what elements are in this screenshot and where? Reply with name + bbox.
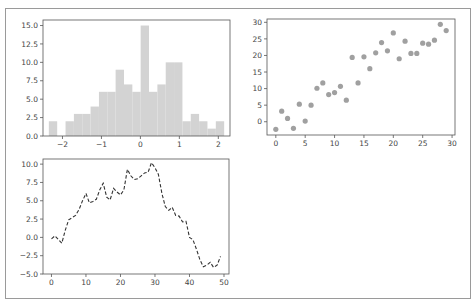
x-tick-label: 40 xyxy=(185,278,195,287)
scatter-point xyxy=(314,86,319,91)
scatter-point xyxy=(426,42,431,47)
scatter-point xyxy=(397,56,402,61)
histogram-bar xyxy=(66,121,74,136)
x-tick-label: 10 xyxy=(81,278,91,287)
y-tick-label: 10.0 xyxy=(21,160,38,169)
y-tick-label: 15.0 xyxy=(21,21,38,30)
scatter-point xyxy=(291,126,296,131)
scatter-point xyxy=(279,109,284,114)
x-tick-label: 20 xyxy=(389,139,399,148)
scatter-point xyxy=(385,48,390,53)
histogram-bar xyxy=(116,70,124,136)
scatter-point xyxy=(320,80,325,85)
x-tick-label: 25 xyxy=(418,139,428,148)
histogram-bar xyxy=(107,92,115,136)
histogram-bar xyxy=(216,121,224,136)
histogram-bar xyxy=(74,114,82,136)
scatter-point xyxy=(308,103,313,108)
scatter-point xyxy=(303,118,308,123)
histogram-bar xyxy=(124,84,132,136)
y-tick-label: −5.0 xyxy=(20,270,38,279)
scatter-point xyxy=(332,90,337,95)
histogram-bar xyxy=(82,114,90,136)
scatter-point xyxy=(373,50,378,55)
line-series xyxy=(52,163,221,268)
y-tick-label: 0.0 xyxy=(26,132,38,141)
y-tick-label: 0 xyxy=(257,117,262,126)
x-tick-label: 5 xyxy=(303,139,308,148)
scatter-point xyxy=(326,92,331,97)
scatter-point xyxy=(350,55,355,60)
x-tick-label: 0 xyxy=(273,139,278,148)
scatter-point xyxy=(414,51,419,56)
scatter-point xyxy=(391,30,396,35)
scatter-point xyxy=(408,51,413,56)
x-tick-label: −2 xyxy=(57,140,68,149)
y-tick-label: 30 xyxy=(252,18,262,27)
histogram-chart: −2−10120.02.55.07.510.012.515.0 xyxy=(21,20,230,149)
y-tick-label: −2.5 xyxy=(20,251,38,260)
scatter-point xyxy=(402,39,407,44)
scatter-point xyxy=(444,28,449,33)
histogram-bar xyxy=(191,114,199,136)
y-tick-label: 2.5 xyxy=(26,215,38,224)
scatter-point xyxy=(338,84,343,89)
y-tick-label: 7.5 xyxy=(26,178,38,187)
histogram-bar xyxy=(157,84,165,136)
x-tick-label: 0 xyxy=(138,140,143,149)
histogram-bar xyxy=(99,92,107,136)
histogram-bar xyxy=(141,26,149,136)
scatter-point xyxy=(361,54,366,59)
scatter-point xyxy=(379,40,384,45)
scatter-point xyxy=(285,116,290,121)
histogram-bar xyxy=(149,92,157,136)
scatter-point xyxy=(432,38,437,43)
histogram-bar xyxy=(49,121,57,136)
scatter-point xyxy=(420,41,425,46)
y-tick-label: 5 xyxy=(257,101,262,110)
y-tick-label: 12.5 xyxy=(21,40,38,49)
x-tick-label: −1 xyxy=(96,140,107,149)
histogram-bar xyxy=(199,121,207,136)
y-tick-label: 10 xyxy=(252,84,262,93)
x-tick-label: 0 xyxy=(49,278,54,287)
x-tick-label: 1 xyxy=(177,140,182,149)
histogram-bar xyxy=(207,129,215,136)
x-tick-label: 20 xyxy=(116,278,126,287)
x-tick-label: 15 xyxy=(359,139,369,148)
scatter-point xyxy=(297,102,302,107)
y-tick-label: 0.0 xyxy=(26,233,38,242)
y-tick-label: 5.0 xyxy=(26,196,38,205)
line-chart: 01020304050−5.0−2.50.02.55.07.510.0 xyxy=(20,159,229,287)
scatter-point xyxy=(273,127,278,132)
y-tick-label: 7.5 xyxy=(26,76,38,85)
x-tick-label: 30 xyxy=(150,278,160,287)
scatter-point xyxy=(367,66,372,71)
x-tick-label: 30 xyxy=(447,139,457,148)
x-tick-label: 2 xyxy=(216,140,221,149)
scatter-point xyxy=(355,80,360,85)
histogram-bar xyxy=(91,107,99,136)
histogram-bar xyxy=(166,62,174,136)
y-tick-label: 20 xyxy=(252,51,262,60)
histogram-bar xyxy=(182,121,190,136)
scatter-point xyxy=(344,98,349,103)
histogram-bar xyxy=(132,92,140,136)
y-tick-label: 2.5 xyxy=(26,113,38,122)
scatter-chart: 051015202530051015202530 xyxy=(252,18,457,148)
axes-frame xyxy=(43,159,229,274)
histogram-bar xyxy=(174,62,182,136)
x-tick-label: 10 xyxy=(330,139,340,148)
y-tick-label: 25 xyxy=(252,35,262,44)
figure-canvas: −2−10120.02.55.07.510.012.515.0 05101520… xyxy=(0,0,476,305)
y-tick-label: 10.0 xyxy=(21,58,38,67)
axes-frame xyxy=(267,19,455,135)
scatter-point xyxy=(438,22,443,27)
y-tick-label: 5.0 xyxy=(26,95,38,104)
y-tick-label: 15 xyxy=(252,68,262,77)
x-tick-label: 50 xyxy=(219,278,229,287)
